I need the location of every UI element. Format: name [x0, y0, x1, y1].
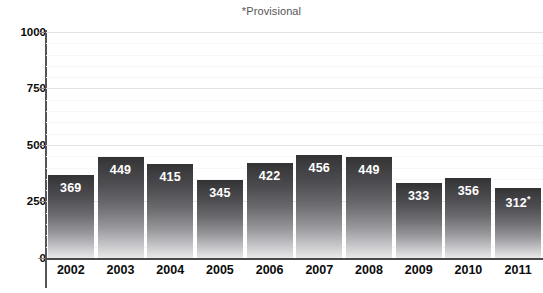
- bar-rect-2011[interactable]: 312*: [495, 188, 541, 259]
- bar-2007[interactable]: 456: [296, 32, 342, 258]
- x-tick-label-2003: 2003: [98, 264, 144, 277]
- bar-value-2004: 415: [147, 171, 193, 184]
- x-tick-label-2008: 2008: [346, 264, 392, 277]
- x-tick-label-2005: 2005: [197, 264, 243, 277]
- bar-rect-2007[interactable]: 456: [296, 155, 342, 258]
- chart-title: *Provisional: [0, 5, 543, 17]
- x-axis: 2002 2003 2004 2005 2006 2007 2008 2009 …: [46, 264, 543, 288]
- bar-value-2010: 356: [445, 185, 491, 198]
- bar-value-2005: 345: [197, 187, 243, 200]
- bar-rect-2005[interactable]: 345: [197, 180, 243, 258]
- bar-rect-2006[interactable]: 422: [247, 163, 293, 258]
- x-axis-line: [45, 258, 543, 260]
- bar-rect-2003[interactable]: 449: [98, 157, 144, 259]
- bar-rect-2002[interactable]: 369: [48, 175, 94, 258]
- bar-2004[interactable]: 415: [147, 32, 193, 258]
- bar-value-2006: 422: [247, 170, 293, 183]
- plot-area: 369 449 415 345 422 456: [46, 32, 543, 258]
- x-tick-label-2006: 2006: [247, 264, 293, 277]
- x-tick-label-2010: 2010: [445, 264, 491, 277]
- x-tick-label-2002: 2002: [48, 264, 94, 277]
- bar-value-2007: 456: [296, 162, 342, 175]
- bar-rect-2010[interactable]: 356: [445, 178, 491, 259]
- x-tick-label-2009: 2009: [396, 264, 442, 277]
- x-tick-label-2007: 2007: [296, 264, 342, 277]
- bar-rect-2009[interactable]: 333: [396, 183, 442, 258]
- bar-value-2008: 449: [346, 164, 392, 177]
- bar-2002[interactable]: 369: [48, 32, 94, 258]
- x-tick-label-2004: 2004: [147, 264, 193, 277]
- bar-chart: *Provisional 1000 750 500 250 0: [0, 0, 543, 293]
- x-tick-label-2011: 2011: [495, 264, 541, 277]
- bar-value-2009: 333: [396, 190, 442, 203]
- bar-2003[interactable]: 449: [98, 32, 144, 258]
- bar-2005[interactable]: 345: [197, 32, 243, 258]
- bar-2008[interactable]: 449: [346, 32, 392, 258]
- y-axis: 1000 750 500 250 0: [0, 0, 46, 293]
- bar-rect-2008[interactable]: 449: [346, 157, 392, 259]
- bar-value-2003: 449: [98, 164, 144, 177]
- bar-rect-2004[interactable]: 415: [147, 164, 193, 258]
- bar-2006[interactable]: 422: [247, 32, 293, 258]
- bar-2011[interactable]: 312*: [495, 32, 541, 258]
- bar-value-2011: 312*: [495, 195, 541, 210]
- bar-2010[interactable]: 356: [445, 32, 491, 258]
- bar-2009[interactable]: 333: [396, 32, 442, 258]
- bar-value-2002: 369: [48, 182, 94, 195]
